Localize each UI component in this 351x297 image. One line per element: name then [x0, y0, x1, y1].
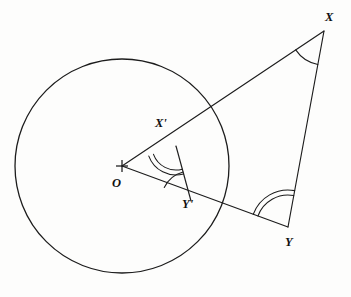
- geometry-figure: X Y X' Y' O: [0, 0, 351, 297]
- plus-marker-icon: [116, 160, 128, 172]
- angle-mark-at-y: [253, 190, 294, 216]
- geometry-canvas: [0, 0, 351, 297]
- point-label-y: Y: [285, 236, 293, 249]
- angle-mark-at-xprime: [149, 154, 184, 175]
- point-label-x: X: [325, 11, 333, 24]
- segment-o-to-y: [122, 166, 288, 227]
- point-label-x-prime: X': [155, 117, 167, 130]
- segment-o-to-x: [122, 31, 324, 166]
- point-label-y-prime: Y': [182, 198, 193, 211]
- angle-mark-at-x: [296, 50, 318, 65]
- point-label-o: O: [112, 177, 121, 190]
